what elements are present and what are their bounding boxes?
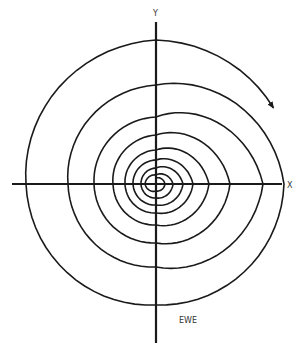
x-axis-label: X bbox=[287, 181, 293, 190]
caption-label: EWE bbox=[179, 316, 197, 325]
spiral-diagram: Y X EWE bbox=[0, 0, 299, 353]
y-axis-label: Y bbox=[152, 9, 158, 18]
spiral-curve bbox=[26, 40, 284, 305]
